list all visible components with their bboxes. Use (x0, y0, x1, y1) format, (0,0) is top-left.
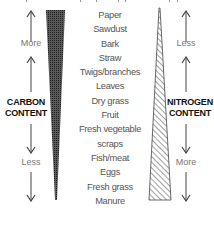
nitrogen-less-label: Less (166, 38, 206, 48)
arrow-down-icon (181, 124, 191, 154)
arrow-down-icon (181, 172, 191, 202)
nitrogen-content-title: NITROGEN CONTENT (166, 97, 214, 119)
nitrogen-more-label: More (166, 157, 206, 167)
arrow-up-icon (181, 56, 191, 92)
